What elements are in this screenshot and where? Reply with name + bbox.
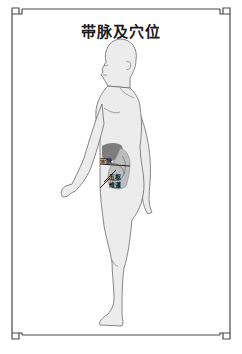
human-figure — [0, 0, 242, 354]
point-label-wushu: 五枢 — [109, 174, 121, 180]
point-label-daimai: 带脉 — [100, 158, 112, 164]
point-label-weidao: 维道 — [109, 182, 121, 188]
head — [101, 39, 136, 88]
left-arm — [61, 104, 104, 197]
